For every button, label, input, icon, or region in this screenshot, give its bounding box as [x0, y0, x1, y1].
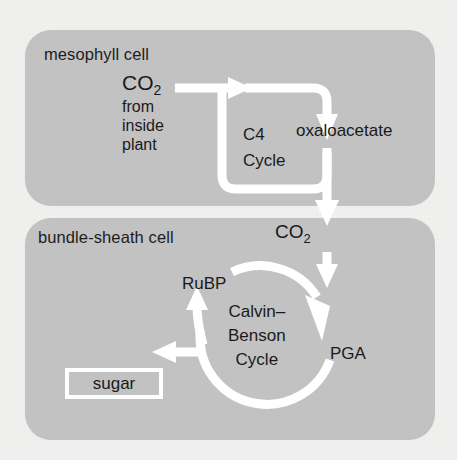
- pga-label: PGA: [330, 345, 366, 362]
- rubp-label: RuBP: [182, 275, 226, 292]
- co2-source-label: from inside plant: [122, 98, 164, 155]
- sugar-box: sugar: [65, 368, 163, 399]
- oxaloacetate-label: oxaloacetate: [296, 122, 392, 139]
- co2-mesophyll-label: CO2: [122, 72, 161, 97]
- diagram-canvas: .aw { fill: none; stroke: #ffffff; strok…: [0, 0, 457, 460]
- sugar-label: sugar: [69, 372, 159, 395]
- co2-mesophyll-text: CO: [122, 71, 154, 94]
- c4-cycle-label: C4 Cycle: [243, 122, 286, 173]
- co2-mesophyll-subscript: 2: [154, 82, 162, 98]
- calvin-benson-cycle-label: Calvin– Benson Cycle: [228, 300, 286, 372]
- co2-bundle-sheath-label: CO2: [275, 222, 311, 245]
- bundle-sheath-cell-title: bundle-sheath cell: [38, 228, 174, 247]
- co2-bundle-sheath-text: CO: [275, 221, 304, 242]
- mesophyll-cell-title: mesophyll cell: [44, 45, 149, 64]
- co2-bundle-sheath-subscript: 2: [304, 231, 311, 246]
